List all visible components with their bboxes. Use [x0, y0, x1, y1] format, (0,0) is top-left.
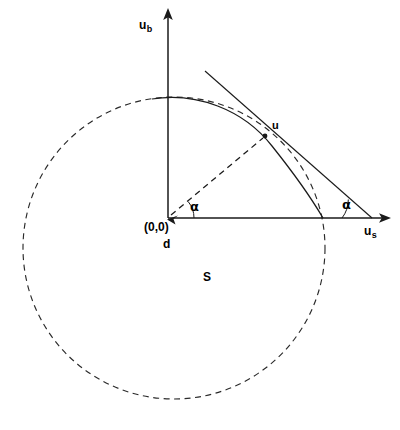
point-u-label: u — [272, 120, 279, 131]
x-axis-label-subscript: s — [372, 230, 377, 240]
x-axis-label: us — [364, 225, 376, 237]
diagram-canvas — [0, 0, 400, 430]
point-u-marker — [263, 134, 268, 139]
region-s-label: S — [203, 271, 211, 283]
angle-alpha-axis-label: α — [342, 198, 351, 211]
angle-alpha-origin-label: α — [190, 200, 199, 213]
y-axis-label-subscript: b — [147, 24, 153, 34]
tangent-line — [205, 71, 372, 218]
origin-d-label: d — [163, 238, 170, 250]
dashed-circle-boundary — [23, 97, 325, 399]
frontier-curve — [152, 97, 323, 218]
y-axis-label: ub — [139, 19, 152, 31]
geometric-diagram-figure: ub us u (0,0) d S α α — [0, 0, 400, 430]
origin-label: (0,0) — [144, 221, 169, 233]
radius-vector-dashed — [171, 138, 263, 215]
